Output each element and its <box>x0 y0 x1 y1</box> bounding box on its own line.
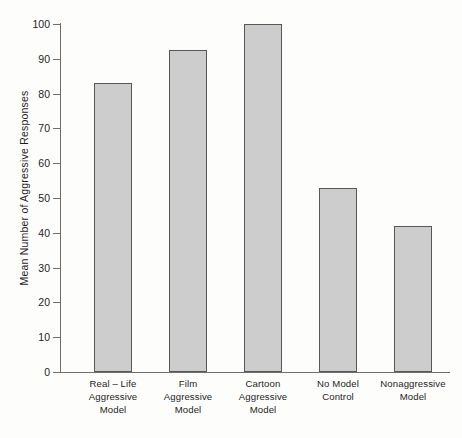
y-tick-mark <box>53 302 60 303</box>
y-tick-label: 10 <box>4 331 50 343</box>
y-tick-label: 60 <box>4 157 50 169</box>
bars-layer <box>60 24 450 372</box>
y-tick-mark <box>53 163 60 164</box>
bar <box>244 24 282 372</box>
y-tick-label: 20 <box>4 296 50 308</box>
y-tick-mark <box>53 198 60 199</box>
y-tick-mark <box>53 233 60 234</box>
x-axis-category-label-line: Nonaggressive <box>368 377 458 390</box>
y-tick-label: 40 <box>4 227 50 239</box>
y-tick-mark <box>53 24 60 25</box>
y-tick-mark <box>53 128 60 129</box>
x-axis-category-labels: Real – LifeAggressiveModelFilmAggressive… <box>60 377 455 435</box>
y-tick-mark <box>53 268 60 269</box>
x-axis-line <box>60 372 450 373</box>
x-axis-category-label-line: Model <box>218 403 308 416</box>
y-tick-label: 30 <box>4 262 50 274</box>
bar <box>319 188 357 372</box>
y-tick-label: 50 <box>4 192 50 204</box>
bar <box>394 226 432 372</box>
y-tick-label: 0 <box>4 366 50 378</box>
y-tick-label: 100 <box>4 18 50 30</box>
y-tick-label: 80 <box>4 88 50 100</box>
x-axis-category-label-line: Model <box>368 390 458 403</box>
y-tick-mark <box>53 337 60 338</box>
y-tick-label: 70 <box>4 122 50 134</box>
y-tick-mark <box>53 372 60 373</box>
bar-chart-figure: Mean Number of Aggressive Responses 0102… <box>0 0 462 438</box>
x-axis-category-label: NonaggressiveModel <box>368 377 458 403</box>
y-tick-mark <box>53 59 60 60</box>
bar <box>169 50 207 372</box>
y-tick-mark <box>53 94 60 95</box>
bar <box>94 83 132 372</box>
y-tick-label: 90 <box>4 53 50 65</box>
